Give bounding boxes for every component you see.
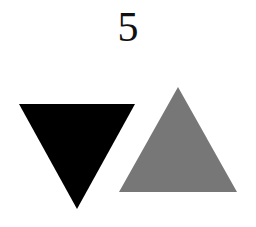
- upright-triangle-icon: [119, 87, 237, 192]
- inverted-triangle-icon: [19, 104, 135, 209]
- shapes-canvas: [0, 0, 256, 227]
